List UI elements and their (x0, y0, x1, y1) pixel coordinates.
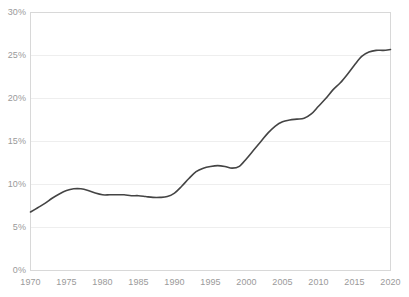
x-tick-label-1970: 1970 (11, 277, 51, 287)
y-tick-label-10: 10% (0, 179, 26, 189)
y-tick-label-25: 25% (0, 50, 26, 60)
x-tick-label-2005: 2005 (263, 277, 303, 287)
line-chart-plot (0, 0, 409, 297)
y-tick-label-20: 20% (0, 93, 26, 103)
y-tick-label-15: 15% (0, 136, 26, 146)
y-tick-label-30: 30% (0, 7, 26, 17)
x-tick-label-1990: 1990 (155, 277, 195, 287)
x-tick-label-1995: 1995 (191, 277, 231, 287)
gridlines-group (31, 13, 391, 228)
data-line-series-share (31, 49, 391, 212)
y-tick-label-0: 0% (0, 265, 26, 275)
x-tick-label-1975: 1975 (47, 277, 87, 287)
chart-container: 30%25%20%15%10%5%0% 19701975198019851990… (0, 0, 409, 297)
x-tick-label-1985: 1985 (119, 277, 159, 287)
x-tick-label-2020: 2020 (371, 277, 409, 287)
x-tick-label-2000: 2000 (227, 277, 267, 287)
y-tick-label-5: 5% (0, 222, 26, 232)
x-tick-label-1980: 1980 (83, 277, 123, 287)
x-tick-label-2010: 2010 (299, 277, 339, 287)
x-tick-label-2015: 2015 (335, 277, 375, 287)
